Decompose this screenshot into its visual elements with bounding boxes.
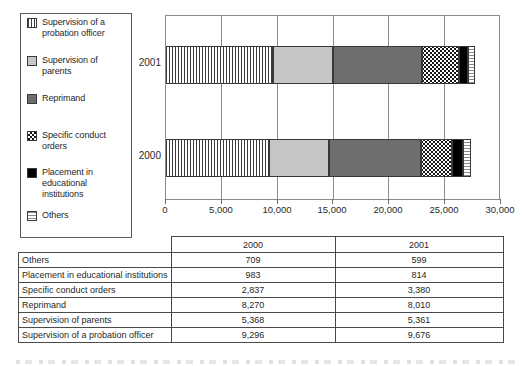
bar-2000-segment-parents xyxy=(269,139,329,177)
cropped-caption-remnant xyxy=(16,360,518,364)
bar-2001-segment-conduct-orders xyxy=(422,46,460,84)
legend-item-probation-officer: Supervision of a probation officer xyxy=(27,17,129,39)
value-2000: 983 xyxy=(171,268,335,283)
vstripes-swatch-icon xyxy=(27,18,37,28)
table-header-2000: 2000 xyxy=(171,237,335,253)
stacked-bar-2001 xyxy=(166,46,499,84)
legend-label: Placement in educational institutions xyxy=(42,167,129,200)
bar-2000-segment-conduct-orders xyxy=(421,139,452,177)
row-label: Placement in educational institutions xyxy=(19,268,172,283)
legend-label: Supervision of a probation officer xyxy=(42,17,129,39)
category-label-2001: 2001 xyxy=(135,57,161,68)
legend-label: Others xyxy=(42,210,68,221)
table-row: Supervision of a probation officer 9,296… xyxy=(19,328,504,343)
lightgray-swatch-icon xyxy=(27,56,37,66)
bar-2001-segment-probation-officer xyxy=(166,46,273,84)
category-label-2000: 2000 xyxy=(135,150,161,161)
darkgray-swatch-icon xyxy=(27,94,37,104)
table-header-empty xyxy=(19,237,172,253)
value-2000: 2,837 xyxy=(171,283,335,298)
value-2001: 599 xyxy=(335,253,503,268)
x-tick-25000: 25,000 xyxy=(422,204,466,215)
juvenile-measures-chart-figure: Supervision of a probation officer Super… xyxy=(0,0,524,366)
legend-item-placement: Placement in educational institutions xyxy=(27,167,129,200)
legend-item-conduct-orders: Specific conduct orders xyxy=(27,130,129,152)
legend-label: Reprimand xyxy=(42,93,85,104)
row-label: Specific conduct orders xyxy=(19,283,172,298)
bar-2000-segment-placement xyxy=(452,139,463,177)
bar-2000-segment-probation-officer xyxy=(166,139,269,177)
legend: Supervision of a probation officer Super… xyxy=(20,13,132,238)
stacked-bar-2000 xyxy=(166,139,499,177)
bar-2000-segment-others xyxy=(463,139,471,177)
x-tick-20000: 20,000 xyxy=(366,204,410,215)
value-2001: 9,676 xyxy=(335,328,503,343)
row-label: Reprimand xyxy=(19,298,172,313)
table-row: Others 709 599 xyxy=(19,253,504,268)
bar-2000-segment-reprimand xyxy=(329,139,421,177)
plot-area xyxy=(165,15,500,200)
table-row: Reprimand 8,270 8,010 xyxy=(19,298,504,313)
value-2001: 8,010 xyxy=(335,298,503,313)
table-header-2001: 2001 xyxy=(335,237,503,253)
legend-item-parents: Supervision of parents xyxy=(27,55,129,77)
value-2001: 5,361 xyxy=(335,313,503,328)
x-tick-15000: 15,000 xyxy=(310,204,354,215)
checker-swatch-icon xyxy=(27,131,37,141)
data-table: 2000 2001 Others 709 599 Placement in ed… xyxy=(18,236,504,343)
legend-label: Supervision of parents xyxy=(42,55,129,77)
value-2001: 814 xyxy=(335,268,503,283)
x-tick-5000: 5,000 xyxy=(199,204,243,215)
bar-2001-segment-others xyxy=(468,46,475,84)
bar-2001-segment-parents xyxy=(273,46,333,84)
value-2001: 3,380 xyxy=(335,283,503,298)
x-tick-10000: 10,000 xyxy=(255,204,299,215)
legend-label: Specific conduct orders xyxy=(42,130,129,152)
x-tick-0: 0 xyxy=(143,204,187,215)
legend-item-others: Others xyxy=(27,210,129,221)
bar-2001-segment-reprimand xyxy=(333,46,422,84)
table-row: Placement in educational institutions 98… xyxy=(19,268,504,283)
value-2000: 8,270 xyxy=(171,298,335,313)
table-header-row: 2000 2001 xyxy=(19,237,504,253)
x-tick-30000: 30,000 xyxy=(478,204,522,215)
table-row: Specific conduct orders 2,837 3,380 xyxy=(19,283,504,298)
hstripes-swatch-icon xyxy=(27,211,37,221)
value-2000: 5,368 xyxy=(171,313,335,328)
row-label: Supervision of a probation officer xyxy=(19,328,172,343)
legend-item-reprimand: Reprimand xyxy=(27,93,129,104)
value-2000: 709 xyxy=(171,253,335,268)
value-2000: 9,296 xyxy=(171,328,335,343)
row-label: Others xyxy=(19,253,172,268)
row-label: Supervision of parents xyxy=(19,313,172,328)
black-swatch-icon xyxy=(27,168,37,178)
table-row: Supervision of parents 5,368 5,361 xyxy=(19,313,504,328)
bar-2001-segment-placement xyxy=(459,46,468,84)
